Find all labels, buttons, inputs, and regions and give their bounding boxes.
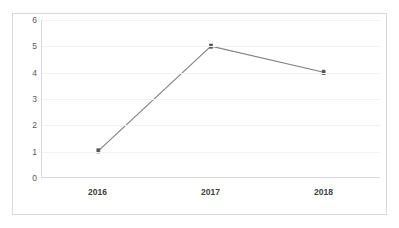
y-axis-tick-label: 0 xyxy=(32,174,37,183)
gridline xyxy=(42,73,380,74)
gridline xyxy=(42,125,380,126)
gridline xyxy=(42,20,380,21)
y-axis-tick-label: 3 xyxy=(32,95,37,104)
gridline xyxy=(42,99,380,100)
chart-plot-wrapper: 0123456 201620172018 xyxy=(13,14,386,214)
x-axis-tick-label: 2018 xyxy=(314,188,333,197)
gridline xyxy=(42,46,380,47)
x-axis-tick-labels: 201620172018 xyxy=(41,188,380,200)
y-axis-tick-label: 2 xyxy=(32,121,37,130)
plot-area xyxy=(41,20,380,178)
y-axis-tick-label: 5 xyxy=(32,42,37,51)
gridline xyxy=(42,152,380,153)
x-axis-tick-label: 2016 xyxy=(88,188,107,197)
y-axis-tick-label: 1 xyxy=(32,147,37,156)
y-axis-tick-labels: 0123456 xyxy=(13,14,37,214)
y-axis-tick-label: 4 xyxy=(32,68,37,77)
x-axis-tick-label: 2017 xyxy=(201,188,220,197)
y-axis-tick-label: 6 xyxy=(32,16,37,25)
chart-container: 0123456 201620172018 xyxy=(12,13,387,215)
